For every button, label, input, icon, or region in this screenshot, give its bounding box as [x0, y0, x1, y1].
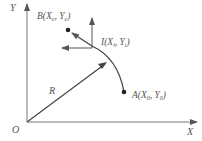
point-i-label: I(Xi, Yi)	[100, 37, 130, 48]
radius-line	[27, 64, 105, 122]
point-b-dot	[66, 28, 71, 33]
radius-label: R	[48, 85, 55, 96]
point-a-label: A(X0, Y0)	[131, 90, 166, 101]
arc-to-b	[72, 33, 92, 46]
x-axis-label: X	[186, 126, 194, 137]
point-a-dot	[122, 90, 127, 95]
y-axis-label: Y	[10, 2, 17, 13]
arc-interpolation-diagram: Y X O R B(Xe, Ye) I(Xi, Yi) A(X0, Y0)	[0, 0, 202, 141]
point-b-label: B(Xe, Ye)	[37, 11, 70, 22]
arc	[92, 46, 124, 92]
origin-label: O	[12, 124, 19, 135]
